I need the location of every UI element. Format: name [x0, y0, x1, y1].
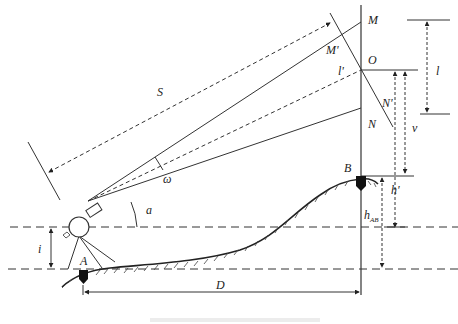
label-v: v	[412, 121, 418, 135]
baseline-perpendicular	[28, 142, 60, 200]
station-B-marker	[356, 176, 366, 191]
figure-caption	[150, 318, 320, 322]
theodolite-instrument	[63, 203, 115, 269]
label-A: A	[79, 254, 88, 268]
label-O: O	[368, 53, 377, 67]
slope-distance-S	[49, 23, 330, 172]
label-S: S	[157, 85, 163, 99]
label-l: l	[436, 64, 440, 78]
station-A-marker	[79, 270, 88, 284]
stadia-diagram: S M M' O l' N' N l v B h' hAB ω a i A D	[0, 0, 458, 324]
label-i: i	[38, 242, 41, 256]
sight-line-lower	[88, 108, 361, 201]
label-h-AB: hAB	[364, 208, 379, 224]
terrain-profile	[62, 179, 378, 288]
alpha-arc	[131, 202, 137, 227]
label-M-prime: M'	[325, 43, 339, 57]
sight-line-center	[88, 70, 361, 201]
label-N-prime: N'	[381, 96, 393, 110]
label-h-prime: h'	[391, 183, 400, 197]
label-N: N	[367, 117, 377, 131]
label-omega: ω	[163, 172, 171, 186]
label-l-prime: l'	[338, 64, 344, 78]
label-h-subscript: AB	[369, 216, 379, 224]
label-B: B	[344, 161, 352, 175]
diagram-canvas: S M M' O l' N' N l v B h' hAB ω a i A D	[0, 0, 458, 324]
label-M: M	[367, 13, 379, 27]
label-D: D	[215, 278, 225, 292]
omega-arc	[155, 157, 163, 170]
sight-line-upper	[88, 22, 361, 201]
label-a: a	[146, 203, 152, 217]
